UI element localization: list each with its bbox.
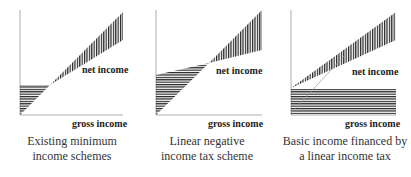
panel-existing-minimum-income [20, 10, 123, 115]
tax-wedge [209, 10, 262, 63]
gross-income-label: gross income [208, 118, 263, 129]
net-income-label: net income [216, 65, 262, 76]
caption: Basic income financed by a linear income… [277, 134, 411, 164]
minimum-income-band [20, 85, 50, 115]
basic-income-band [291, 89, 396, 114]
panel-basic-income [291, 10, 396, 115]
negative-tax-band [156, 63, 209, 115]
caption: Existing minimum income schemes [7, 134, 137, 164]
caption: Linear negative income tax scheme [142, 134, 272, 164]
gross-income-label: gross income [72, 118, 127, 129]
gross-income-label: gross income [345, 118, 400, 129]
net-income-label: net income [352, 66, 398, 77]
panel-negative-income-tax [156, 10, 262, 115]
net-income-label: net income [82, 64, 128, 75]
